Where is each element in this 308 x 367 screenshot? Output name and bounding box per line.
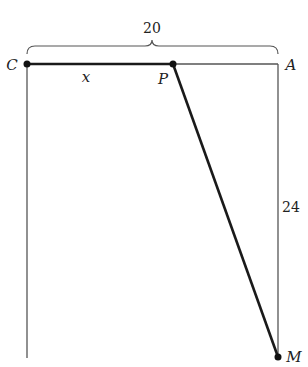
label-x: x (82, 68, 91, 86)
label-M: M (285, 348, 302, 366)
top-brace (27, 40, 278, 54)
point-P (170, 61, 177, 68)
point-C (24, 61, 31, 68)
width-label: 20 (143, 20, 161, 36)
height-label: 24 (282, 199, 300, 215)
point-M (275, 354, 282, 361)
geometry-diagram: 20 C x P A 24 M (0, 0, 308, 367)
label-A: A (284, 56, 297, 74)
segment-PM (173, 64, 278, 357)
label-P: P (157, 70, 169, 88)
label-C: C (6, 56, 18, 74)
